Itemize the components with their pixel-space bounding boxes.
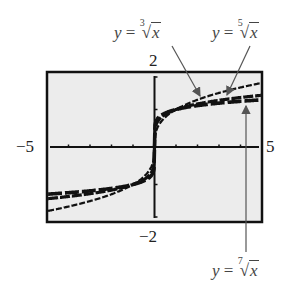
x-max-label: 5 <box>266 138 275 155</box>
y-min-label: −2 <box>139 228 157 245</box>
cube-root-label: y = 3√x <box>114 24 161 41</box>
x-min-label: −5 <box>16 138 34 155</box>
seventh-root-label: y = 7√x <box>212 262 259 279</box>
y-max-label: 2 <box>149 52 158 69</box>
fifth-root-label: y = 5√x <box>212 24 259 41</box>
